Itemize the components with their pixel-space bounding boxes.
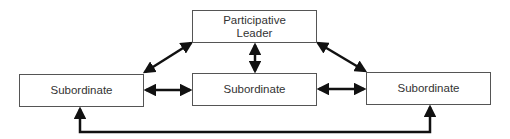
node-subordinate-left: Subordinate bbox=[19, 74, 144, 107]
edge-left-right-bottom bbox=[80, 107, 430, 132]
leader-label-line1: Participative bbox=[223, 14, 286, 27]
edge-leader-right bbox=[318, 43, 365, 71]
subordinate-middle-label: Subordinate bbox=[223, 83, 285, 96]
node-subordinate-right: Subordinate bbox=[366, 72, 491, 105]
subordinate-right-label: Subordinate bbox=[397, 82, 459, 95]
node-participative-leader: Participative Leader bbox=[192, 10, 317, 43]
node-subordinate-middle: Subordinate bbox=[192, 73, 317, 106]
subordinate-left-label: Subordinate bbox=[50, 84, 112, 97]
edge-leader-left bbox=[145, 43, 191, 72]
leader-label-line2: Leader bbox=[223, 27, 286, 40]
